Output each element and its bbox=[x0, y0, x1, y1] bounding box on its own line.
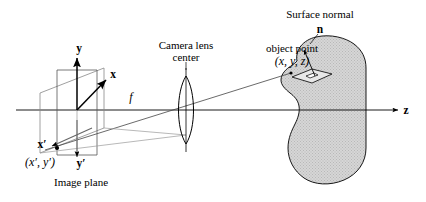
camera-lens-label-line2: center bbox=[173, 51, 200, 63]
axis-x-arrow bbox=[77, 80, 106, 110]
focal-length-label: f bbox=[129, 91, 132, 104]
camera-lens-label-line1: Camera lens bbox=[159, 39, 214, 51]
axis-y-prime-label: y′ bbox=[77, 157, 86, 170]
projection-ray bbox=[45, 73, 291, 150]
normal-symbol-label: n bbox=[317, 23, 323, 36]
object-point-label-line2: (x, y, z) bbox=[275, 55, 310, 68]
axis-x-prime-label: x′ bbox=[38, 138, 47, 151]
object-point-marker bbox=[289, 71, 292, 74]
image-point-dot bbox=[55, 146, 59, 150]
surface-normal-label: Surface normal bbox=[286, 8, 354, 20]
axis-y-label: y bbox=[76, 42, 82, 55]
image-plane-label: Image plane bbox=[54, 176, 108, 188]
image-plane-perspective bbox=[40, 68, 104, 153]
axis-x-label: x bbox=[110, 68, 116, 81]
object-point-label-line1: object point bbox=[266, 42, 318, 54]
perspective-construction-lines bbox=[40, 110, 186, 155]
axis-z-label: z bbox=[403, 104, 408, 117]
image-point-label: (x′, y′) bbox=[25, 156, 55, 169]
figure-vector-graphics bbox=[0, 0, 426, 202]
camera-geometry-figure: y x z x′ y′ (x′, y′) Image plane f Camer… bbox=[0, 0, 426, 202]
